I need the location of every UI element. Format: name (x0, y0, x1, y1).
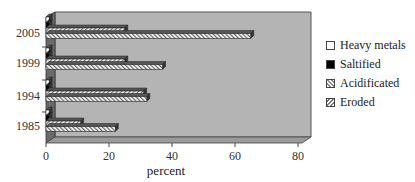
legend: Heavy metals Saltified Acidificated Erod… (326, 36, 406, 112)
legend-item-saltified: Saltified (326, 55, 406, 74)
bar-1985-eroded (46, 124, 118, 132)
bar-1994-eroded (46, 94, 150, 102)
y-tick-label: 1999 (16, 56, 40, 70)
y-axis-ticks: 2005199919941985 (16, 26, 46, 133)
x-tick-label: 80 (292, 149, 304, 163)
y-tick-label: 1994 (16, 89, 40, 103)
bar-2005-eroded (46, 31, 254, 39)
x-tick-label: 0 (43, 149, 49, 163)
legend-label: Heavy metals (340, 38, 406, 53)
legend-label: Acidificated (340, 76, 399, 91)
bar-1999-eroded (46, 62, 166, 70)
legend-swatch-acidificated (326, 79, 335, 88)
x-tick-label: 40 (166, 149, 178, 163)
legend-item-heavy-metals: Heavy metals (326, 36, 406, 55)
y-tick-label: 2005 (16, 26, 40, 40)
x-axis-ticks: 020406080 (43, 143, 304, 163)
y-tick-label: 1985 (16, 119, 40, 133)
x-axis-label: percent (147, 163, 186, 178)
x-tick-label: 20 (103, 149, 115, 163)
legend-swatch-heavy-metals (326, 41, 335, 50)
legend-item-eroded: Eroded (326, 93, 406, 112)
legend-label: Saltified (340, 57, 381, 72)
plot-floor (46, 137, 311, 143)
legend-swatch-saltified (326, 60, 335, 69)
x-tick-label: 60 (229, 149, 241, 163)
legend-label: Eroded (340, 95, 375, 110)
legend-swatch-eroded (326, 98, 335, 107)
legend-item-acidificated: Acidificated (326, 74, 406, 93)
